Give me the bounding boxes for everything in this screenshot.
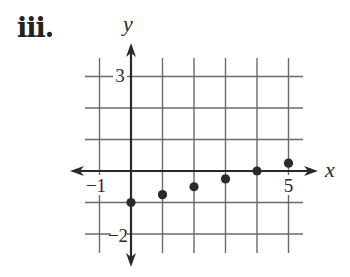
data-point (252, 166, 261, 175)
data-point (158, 190, 167, 199)
data-point (284, 159, 293, 168)
data-points (126, 159, 293, 208)
grid-lines (85, 58, 303, 253)
y-tick-label-3: 3 (115, 65, 125, 86)
x-axis-label: x (324, 157, 335, 182)
scatter-plot: 3−2−15xy (0, 0, 350, 277)
x-tick-label-neg1: −1 (86, 175, 106, 196)
data-point (126, 198, 135, 207)
y-tick-label-neg2: −2 (108, 225, 128, 246)
data-point (189, 182, 198, 191)
x-tick-label-5: 5 (284, 175, 294, 196)
axis-labels: 3−2−15xy (84, 11, 335, 246)
data-point (221, 174, 230, 183)
y-axis-label: y (121, 11, 133, 36)
